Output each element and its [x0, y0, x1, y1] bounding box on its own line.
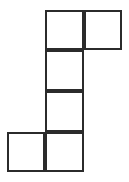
polyomino-square: [46, 92, 83, 131]
polyomino-figure: [0, 0, 129, 182]
polyomino-canvas: [0, 0, 129, 182]
polyomino-square: [46, 51, 83, 90]
polyomino-square: [46, 133, 83, 171]
polyomino-square: [8, 133, 44, 171]
polyomino-square: [85, 11, 121, 49]
polyomino-square: [46, 11, 83, 49]
